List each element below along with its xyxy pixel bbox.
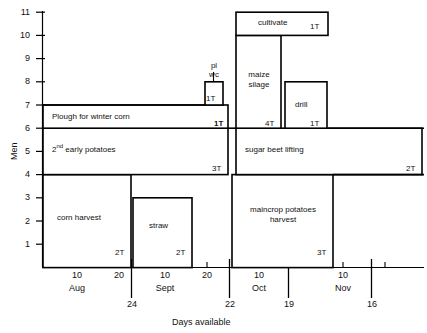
y-tick-8: 8 bbox=[12, 77, 30, 86]
y-axis-title: Men bbox=[10, 142, 19, 160]
teams-corn-harvest: 2T bbox=[115, 248, 124, 257]
label-maincrop-line2: harvest bbox=[233, 215, 333, 224]
label-pl-wc-line1: pl bbox=[204, 61, 224, 70]
label-second-early-potatoes-rest: early potatoes bbox=[63, 145, 115, 154]
label-maincrop-line1: maincrop potatoes bbox=[233, 205, 333, 214]
label-plough-winter-corn: Plough for winter corn bbox=[52, 112, 130, 122]
y-tick-7: 7 bbox=[12, 101, 30, 110]
y-tick-1: 1 bbox=[12, 240, 30, 249]
teams-second-early-potatoes: 3T bbox=[212, 164, 221, 173]
y-tick-9: 9 bbox=[12, 54, 30, 63]
activity-blocks bbox=[43, 12, 422, 267]
x-month-sept: Sept bbox=[150, 284, 180, 293]
teams-pl-wc: 1T bbox=[206, 94, 215, 103]
label-cultivate: cultivate bbox=[258, 18, 287, 28]
label-maize-silage-line1: maize bbox=[237, 70, 281, 79]
deadline-label-19: 19 bbox=[279, 300, 299, 309]
deadline-label-22: 22 bbox=[220, 300, 240, 309]
x-tick-aug-20: 20 bbox=[107, 271, 131, 280]
x-tick-sept-20: 20 bbox=[195, 271, 219, 280]
deadline-label-16: 16 bbox=[362, 300, 382, 309]
label-second-early-potatoes: 2nd early potatoes bbox=[52, 145, 116, 155]
x-tick-oct-10: 10 bbox=[247, 271, 271, 280]
label-pl-wc-line2: wc bbox=[204, 70, 224, 79]
x-axis-title: Days available bbox=[172, 317, 231, 327]
label-straw: straw bbox=[149, 221, 168, 231]
teams-sugar-beet-lifting: 2T bbox=[406, 164, 415, 173]
teams-straw: 2T bbox=[176, 248, 185, 257]
label-drill: drill bbox=[295, 100, 307, 110]
teams-cultivate: 1T bbox=[310, 22, 319, 31]
y-tick-4: 4 bbox=[12, 170, 30, 179]
label-corn-harvest: corn harvest bbox=[57, 213, 101, 223]
y-tick-3: 3 bbox=[12, 193, 30, 202]
x-month-oct: Oct bbox=[244, 284, 274, 293]
x-tick-aug-10: 10 bbox=[65, 271, 89, 280]
x-month-aug: Aug bbox=[62, 284, 92, 293]
x-tick-sept-10: 10 bbox=[153, 271, 177, 280]
teams-drill: 1T bbox=[310, 119, 319, 128]
label-maize-silage-line2: silage bbox=[237, 80, 281, 89]
teams-maincrop-potatoes: 3T bbox=[317, 248, 326, 257]
x-month-nov: Nov bbox=[328, 284, 358, 293]
y-tick-6: 6 bbox=[12, 124, 30, 133]
y-tick-2: 2 bbox=[12, 217, 30, 226]
teams-plough-right: 1T bbox=[214, 119, 223, 128]
block-straw bbox=[133, 198, 192, 268]
x-tick-nov-10: 10 bbox=[331, 271, 355, 280]
deadline-label-24: 24 bbox=[122, 300, 142, 309]
label-sugar-beet-lifting: sugar beet lifting bbox=[245, 145, 304, 155]
y-tick-10: 10 bbox=[12, 31, 30, 40]
teams-maize-silage: 4T bbox=[265, 119, 274, 128]
y-tick-11: 11 bbox=[12, 8, 30, 17]
